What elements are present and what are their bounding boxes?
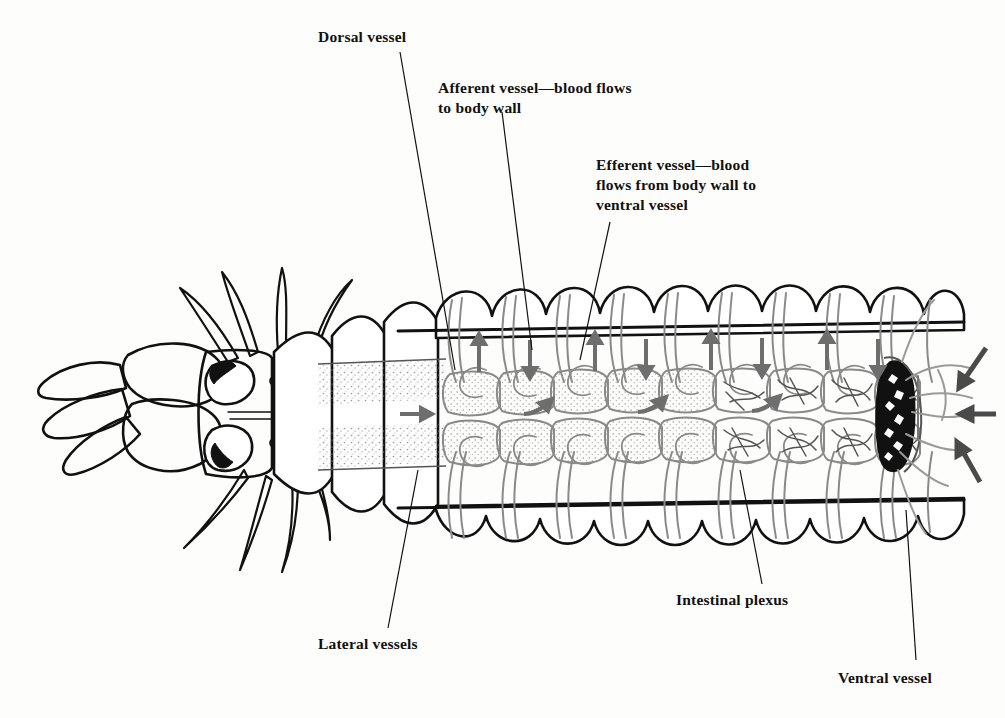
- label-efferent-vessel: Efferent vessel—blood flows from body wa…: [596, 155, 756, 214]
- label-ventral-vessel: Ventral vessel: [838, 668, 932, 688]
- label-afferent-vessel: Afferent vessel—blood flows to body wall: [438, 78, 632, 118]
- label-lateral-vessels: Lateral vessels: [318, 634, 418, 654]
- segment-a2: [332, 317, 386, 512]
- label-dorsal-vessel: Dorsal vessel: [318, 27, 406, 47]
- label-intestinal-plexus: Intestinal plexus: [676, 590, 788, 610]
- dorsal-vessel-band-anterior: [318, 359, 444, 406]
